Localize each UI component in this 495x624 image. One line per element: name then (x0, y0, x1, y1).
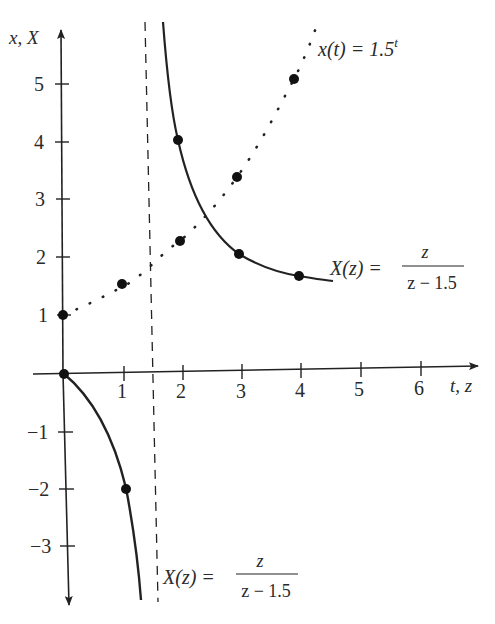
svg-text:5: 5 (34, 73, 44, 95)
svg-text:4: 4 (295, 379, 305, 401)
point-right-z2 (173, 135, 183, 145)
point-left-z0 (59, 369, 69, 379)
svg-text:X(z) =: X(z) = (329, 257, 382, 280)
y-axis-label: x, X (8, 27, 40, 48)
asymptote-line (145, 22, 158, 602)
y-tick-labels: 5 4 3 2 1 −1 −2 −3 (27, 73, 51, 557)
annotation-rational-right: X(z) = z z − 1.5 (329, 242, 464, 293)
svg-text:6: 6 (414, 377, 424, 399)
svg-text:−2: −2 (28, 478, 49, 500)
x-tick-labels: 1 2 3 4 5 6 (117, 377, 424, 402)
svg-text:1: 1 (38, 304, 48, 326)
point-left-z1 (121, 484, 131, 494)
annotation-rational-bottom: X(z) = z z − 1.5 (162, 551, 298, 601)
axes (33, 30, 478, 605)
point-right-z4 (294, 271, 304, 281)
annotation-exponential: x(t) = 1.5t (317, 35, 398, 61)
y-axis-up (61, 30, 63, 373)
svg-text:z − 1.5: z − 1.5 (407, 273, 457, 293)
data-points (58, 74, 304, 494)
svg-text:2: 2 (36, 246, 46, 268)
svg-text:2: 2 (176, 380, 186, 402)
svg-text:x(t) = 1.5t: x(t) = 1.5t (317, 35, 398, 61)
svg-text:−1: −1 (27, 421, 48, 443)
x-axis (33, 366, 478, 374)
point-right-z3 (234, 249, 244, 259)
right-branch-curve (163, 22, 333, 281)
x-axis-label: t, z (450, 375, 473, 396)
point-dotted-t3 (232, 172, 242, 182)
svg-text:X(z) =: X(z) = (162, 566, 215, 589)
svg-text:3: 3 (35, 188, 45, 210)
svg-text:z: z (420, 242, 428, 262)
point-dotted-t2 (175, 236, 185, 246)
point-dotted-t4 (289, 74, 299, 84)
point-dotted-t0 (58, 310, 68, 320)
svg-text:z − 1.5: z − 1.5 (241, 581, 291, 601)
svg-text:1: 1 (117, 380, 127, 402)
svg-text:4: 4 (34, 131, 44, 153)
svg-text:z: z (255, 551, 263, 571)
svg-text:5: 5 (354, 378, 364, 400)
point-dotted-t1 (117, 279, 127, 289)
svg-text:−3: −3 (30, 535, 51, 557)
svg-text:3: 3 (236, 380, 246, 402)
chart: 1 2 3 4 5 6 5 4 3 2 1 −1 −2 −3 x, X t, z (0, 0, 495, 624)
